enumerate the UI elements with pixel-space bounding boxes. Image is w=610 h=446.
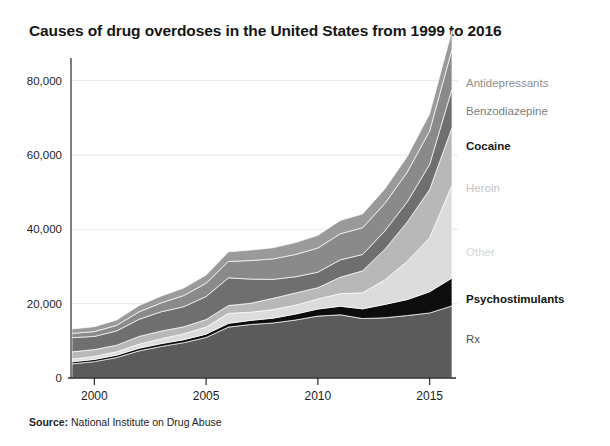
x-axis-tick-label: 2005 [193, 389, 220, 403]
series-label-other: Other [466, 247, 495, 259]
x-axis-tick-label: 2015 [416, 389, 443, 403]
y-axis-tick-label: 0 [56, 372, 62, 384]
series-label-rx: Rx [466, 334, 480, 346]
x-axis-tick-label: 2010 [305, 389, 332, 403]
series-label-psychostimulants: Psychostimulants [466, 294, 564, 306]
source-value: National Institute on Drug Abuse [68, 416, 222, 428]
series-label-cocaine: Cocaine [466, 141, 511, 153]
y-axis-tick-label: 20,000 [27, 298, 62, 310]
chart-container: Causes of drug overdoses in the United S… [0, 0, 610, 446]
series-label-antidepressants: Antidepressants [466, 78, 548, 90]
source-note: Source: National Institute on Drug Abuse [29, 416, 222, 428]
y-axis-tick-label: 60,000 [27, 149, 62, 161]
series-label-benzodiazepine: Benzodiazepine [466, 106, 548, 118]
stacked-area-chart: 020,00040,00060,00080,000200020052010201… [0, 0, 610, 446]
series-label-heroin: Heroin [466, 183, 500, 195]
x-axis-tick-label: 2000 [81, 389, 108, 403]
source-label: Source: [29, 416, 68, 428]
y-axis-tick-label: 40,000 [27, 223, 62, 235]
y-axis-tick-label: 80,000 [27, 75, 62, 87]
